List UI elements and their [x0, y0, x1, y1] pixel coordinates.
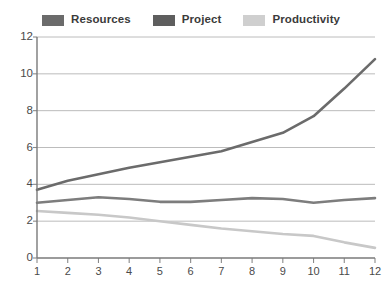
x-axis-label: 7 — [208, 266, 234, 277]
legend-label-productivity: Productivity — [272, 14, 340, 26]
x-axis-label: 5 — [147, 266, 173, 277]
y-axis-label: 8 — [5, 105, 33, 117]
legend-label-resources: Resources — [71, 14, 131, 26]
x-axis-label: 10 — [301, 266, 327, 277]
legend-item-project[interactable]: Project — [153, 14, 222, 26]
x-axis-label: 4 — [116, 266, 142, 277]
legend-swatch-resources — [42, 15, 64, 26]
legend-label-project: Project — [182, 14, 222, 26]
plot-area — [37, 37, 375, 258]
x-axis-label: 3 — [85, 266, 111, 277]
y-axis-label: 10 — [5, 68, 33, 80]
x-axis-label: 12 — [362, 266, 388, 277]
y-axis-label: 6 — [5, 142, 33, 154]
x-axis-label: 11 — [331, 266, 357, 277]
gridlines — [37, 37, 375, 221]
y-axis-label: 0 — [5, 252, 33, 264]
line-chart: Resources Project Productivity 024681012… — [0, 0, 390, 297]
legend-item-productivity[interactable]: Productivity — [243, 14, 340, 26]
series-lines — [37, 59, 375, 248]
legend-swatch-productivity — [243, 15, 265, 26]
plot-svg — [37, 37, 375, 258]
x-axis-label: 6 — [178, 266, 204, 277]
series-line-productivity — [37, 211, 375, 248]
x-axis-tick-labels: 123456789101112 — [37, 266, 375, 282]
chart-legend: Resources Project Productivity — [0, 10, 390, 30]
y-axis-label: 12 — [5, 31, 33, 43]
y-axis-label: 4 — [5, 179, 33, 191]
x-axis-label: 9 — [270, 266, 296, 277]
series-line-project — [37, 197, 375, 203]
legend-item-resources[interactable]: Resources — [42, 14, 131, 26]
x-axis-label: 8 — [239, 266, 265, 277]
series-line-resources — [37, 59, 375, 190]
y-axis-label: 2 — [5, 215, 33, 227]
legend-swatch-project — [153, 15, 175, 26]
x-axis-label: 1 — [24, 266, 50, 277]
x-axis-ticks — [37, 258, 375, 263]
y-axis-tick-labels: 024681012 — [0, 37, 33, 258]
x-axis-label: 2 — [55, 266, 81, 277]
